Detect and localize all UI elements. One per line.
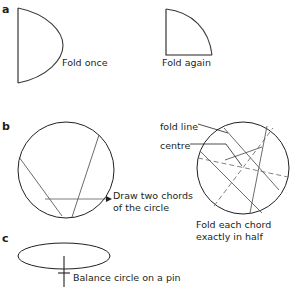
panel-label-a: a [2, 4, 9, 15]
chord-right-one [224, 128, 279, 190]
quarter-circle-shape [166, 9, 212, 55]
panel-label-b: b [2, 121, 10, 132]
half-circle-arc [18, 8, 63, 83]
half-circle-shape [18, 8, 63, 83]
chord-two [19, 157, 62, 216]
chord-right-three [250, 126, 267, 213]
quarter-circle-straight-edges [166, 9, 212, 55]
caption-fold-again: Fold again [162, 57, 211, 69]
quarter-circle-arc [166, 9, 212, 55]
circle-outline-right [197, 122, 289, 214]
caption-fold-each-chord: Fold each chord exactly in half [196, 219, 271, 242]
panel-label-c: c [2, 233, 9, 244]
circle-with-chords [18, 122, 114, 218]
caption-balance-on-pin: Balance circle on a pin [73, 272, 181, 284]
caption-centre: centre [160, 140, 190, 152]
figure-canvas [0, 0, 290, 288]
half-fold-tick-one [225, 147, 262, 160]
circle-with-fold-lines [190, 122, 289, 214]
chord-one [72, 135, 99, 217]
chord-leader-arrowhead [106, 196, 112, 202]
caption-fold-once: Fold once [62, 57, 108, 69]
caption-draw-two-chords: Draw two chords of the circle [113, 190, 193, 213]
fold-line-leader [198, 124, 228, 133]
circle-outline-left [18, 122, 114, 218]
caption-fold-line: fold line [160, 121, 198, 133]
